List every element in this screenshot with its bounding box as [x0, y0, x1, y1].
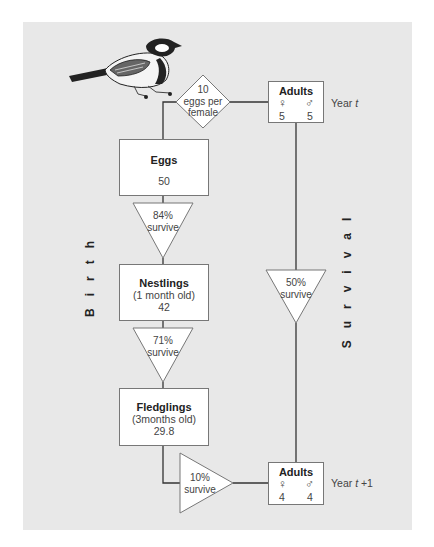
fledgling-survival-label: 10% survive — [180, 472, 220, 495]
female-count: 4 — [279, 491, 285, 503]
adults-year-t-plus-1-box: Adults ♀ ♂ 4 4 — [268, 462, 324, 505]
year-t-plus-1-label: Year t +1 — [331, 477, 373, 489]
birth-label: Birth — [83, 228, 97, 318]
reproduction-label: 10 eggs per female — [176, 84, 230, 119]
female-count: 5 — [279, 110, 285, 122]
eggs-box: Eggs 50 — [119, 139, 209, 196]
year-t-label: Year t — [331, 97, 358, 109]
nestlings-title: Nestlings — [120, 277, 208, 289]
flow-lines — [0, 0, 434, 547]
nestlings-age: (1 month old) — [120, 289, 208, 301]
eggs-count: 50 — [120, 175, 208, 187]
survival-label: Survival — [340, 202, 354, 352]
nestling-survival-label: 71% survive — [133, 335, 193, 358]
male-count: 4 — [307, 491, 313, 503]
male-icon: ♂ — [305, 478, 314, 490]
fledglings-age: (3months old) — [120, 413, 208, 425]
male-count: 5 — [307, 110, 313, 122]
adult-survival-label: 50% survive — [266, 277, 326, 300]
eggs-title: Eggs — [120, 154, 208, 166]
bird-icon — [69, 39, 182, 99]
adults-year-t-box: Adults ♀ ♂ 5 5 — [268, 81, 324, 123]
male-icon: ♂ — [305, 97, 314, 109]
female-icon: ♀ — [278, 478, 287, 490]
fledglings-box: Fledglings (3months old) 29.8 — [119, 388, 209, 446]
nestlings-count: 42 — [120, 301, 208, 313]
female-icon: ♀ — [278, 97, 287, 109]
fledglings-title: Fledglings — [120, 401, 208, 413]
nestlings-box: Nestlings (1 month old) 42 — [119, 264, 209, 321]
fledglings-count: 29.8 — [120, 425, 208, 437]
egg-survival-label: 84% survive — [133, 210, 193, 233]
